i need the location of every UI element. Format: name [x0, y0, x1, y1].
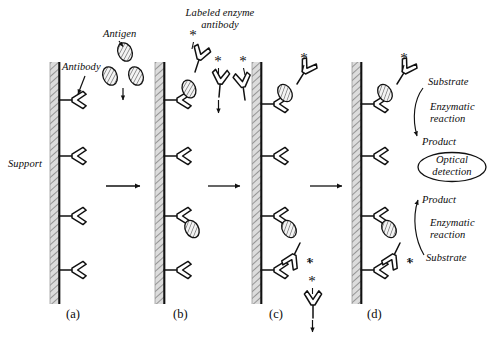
enzymatic-reaction-top-label-line2: reaction [430, 113, 465, 124]
optical-detection-label-line1: Optical [436, 154, 468, 165]
free-antigens-group [100, 41, 146, 100]
panel-label-a: (a) [66, 307, 80, 322]
labeled-enzyme-antibody-label-line2: antibody [201, 19, 239, 30]
support-column-c [252, 62, 261, 304]
optical-detection-label-line2: detection [432, 166, 471, 177]
panel-label-d: (d) [367, 307, 382, 322]
enzyme-label-asterisk-icon: * [300, 50, 308, 66]
enzyme-label-asterisk-icon: * [239, 53, 247, 69]
enzyme-label-asterisk-icon: * [214, 53, 222, 69]
panel-b-antibodies [164, 91, 191, 278]
panel-c-antibodies [261, 95, 288, 278]
substrate-bottom-label: Substrate [426, 252, 467, 264]
free-labeled-antibody-2: * [210, 53, 230, 113]
washed-away-labeled-antibody: * [304, 273, 321, 332]
antibody-label: Antibody [62, 61, 101, 73]
enzymatic-reaction-curve-bottom [415, 200, 424, 255]
enzymatic-reaction-bottom-label-line2: reaction [430, 229, 465, 240]
free-labeled-antibody-3: * [233, 53, 254, 101]
enzyme-label-asterisk-icon: * [308, 273, 316, 289]
antigen-label: Antigen [103, 28, 136, 40]
panel-d-antibodies [361, 95, 388, 278]
panel-d-sandwich-mid: * [379, 218, 414, 271]
panel-label-b: (b) [173, 307, 188, 322]
support-column-d [352, 62, 361, 304]
product-top-label: Product [422, 136, 456, 148]
elisa-diagram-figure: * * * [0, 0, 497, 337]
panel-label-c: (c) [269, 307, 283, 322]
support-column-a [50, 62, 59, 304]
support-column-b [155, 62, 164, 304]
panel-c-sandwich-mid: * [279, 218, 314, 271]
panel-c-sandwich-top: * [275, 50, 319, 104]
enzymatic-reaction-top-label-line1: Enzymatic [430, 101, 475, 112]
substrate-top-label: Substrate [428, 76, 469, 88]
panel-a-antibodies [59, 91, 86, 278]
product-bottom-label: Product [422, 194, 456, 206]
panel-d-sandwich-top: * [375, 50, 419, 104]
free-labeled-antibody-1: * [187, 27, 212, 75]
labeled-enzyme-antibody-label-line1: Labeled enzyme [186, 7, 255, 18]
enzymatic-reaction-bottom-label-line1: Enzymatic [430, 217, 475, 228]
support-label: Support [8, 158, 42, 170]
enzyme-label-asterisk-icon: * [400, 50, 408, 66]
enzymatic-reaction-curve-top [414, 88, 423, 136]
